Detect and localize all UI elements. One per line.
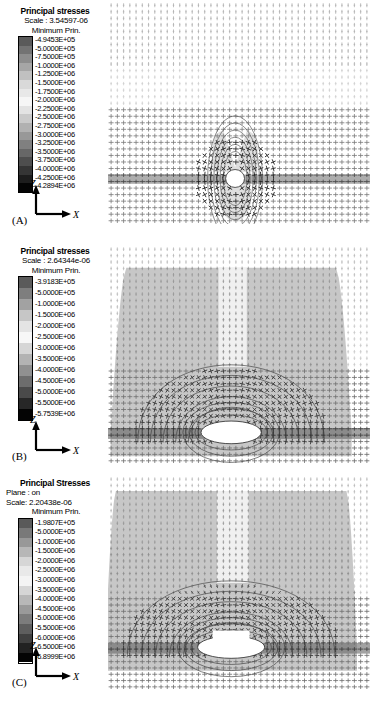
panel-letter-c: (C) xyxy=(12,676,27,688)
legend-value: -2.0000E+06 xyxy=(35,320,75,331)
axis-label-z: Z xyxy=(30,414,36,425)
panel-letter-b: (B) xyxy=(12,450,27,462)
legend-c: Principal Stresses Plane : on Scale: 2.2… xyxy=(4,478,108,664)
legend-value: -5.0000E+06 xyxy=(35,386,75,397)
colorbar-segment xyxy=(19,528,32,538)
colorbar-segment xyxy=(19,365,32,376)
legend-component: Minimum Prin. xyxy=(4,507,108,517)
legend-value: -1.5000E+06 xyxy=(35,546,75,556)
colorbar-segment xyxy=(19,332,32,343)
plot-area-c xyxy=(108,476,370,690)
colorbar-segment xyxy=(19,114,32,123)
colorbar-segment xyxy=(19,166,32,175)
colorbar-segment xyxy=(19,566,32,576)
colorbar-segment xyxy=(19,46,32,55)
legend-value: -3.0000E+06 xyxy=(35,575,75,585)
colorbar-segment xyxy=(19,398,32,409)
legend-value: -4.5000E+06 xyxy=(35,604,75,614)
colorbar-segment xyxy=(19,343,32,354)
legend-value: -2.5000E+06 xyxy=(35,565,75,575)
axis-triad-a: Z X xyxy=(26,178,84,220)
legend-value: -5.0000E+06 xyxy=(35,613,75,623)
panel-b: Principal stresses Scale : 2.64344e-06 M… xyxy=(0,232,372,472)
colorbar-segment xyxy=(19,557,32,567)
colorbar-segment xyxy=(19,354,32,365)
legend-value: -2.5000E+06 xyxy=(35,331,75,342)
legend-value: -5.5000E+06 xyxy=(35,397,75,408)
legend-value: -4.5000E+06 xyxy=(35,375,75,386)
legend-scale: Scale : 3.54597-06 xyxy=(4,16,108,26)
colorbar xyxy=(18,36,33,193)
legend-a: Principal stresses Scale : 3.54597-06 Mi… xyxy=(4,6,108,193)
stress-field-canvas-c xyxy=(108,476,370,690)
legend-value: -3.9183E+05 xyxy=(35,276,75,287)
colorbar-segment xyxy=(19,132,32,141)
colorbar-segment xyxy=(19,519,32,529)
figure-root: Principal stresses Scale : 3.54597-06 Mi… xyxy=(0,0,372,711)
axis-label-x: X xyxy=(72,209,80,220)
legend-value: -5.0000E+05 xyxy=(35,527,75,537)
colorbar-segment xyxy=(19,538,32,548)
legend-value: -5.0000E+05 xyxy=(35,287,75,298)
legend-b: Principal stresses Scale : 2.64344e-06 M… xyxy=(4,246,108,421)
colorbar-segment xyxy=(19,376,32,387)
colorbar-segment xyxy=(19,576,32,586)
legend-value: -1.9807E+05 xyxy=(35,518,75,528)
colorbar-segment xyxy=(19,80,32,89)
legend-value: -3.5000E+06 xyxy=(35,585,75,595)
legend-component: Minimum Prin. xyxy=(4,266,108,276)
colorbar-segment xyxy=(19,605,32,615)
legend-plane: Plane : on xyxy=(4,488,108,498)
colorbar-segment xyxy=(19,321,32,332)
legend-value: -3.0000E+06 xyxy=(35,342,75,353)
colorbar-segment xyxy=(19,54,32,63)
colorbar-segment xyxy=(19,310,32,321)
colorbar xyxy=(18,276,33,421)
legend-value: -3.5000E+06 xyxy=(35,353,75,364)
panel-letter-a: (A) xyxy=(12,214,27,226)
axis-label-x: X xyxy=(72,445,80,456)
legend-value: -1.5000E+06 xyxy=(35,309,75,320)
legend-value: -1.0000E+06 xyxy=(35,537,75,547)
legend-title: Principal Stresses xyxy=(2,478,108,488)
legend-scale: Scale: 2.20438e-06 xyxy=(4,498,108,508)
stress-field-canvas-a xyxy=(108,2,370,224)
colorbar-segment xyxy=(19,157,32,166)
colorbar-segment xyxy=(19,624,32,634)
axis-triad-b: Z X xyxy=(26,414,84,456)
colorbar-segment xyxy=(19,387,32,398)
colorbar-segment xyxy=(19,63,32,72)
colorbar-segment xyxy=(19,288,32,299)
legend-value: -5.5000E+06 xyxy=(35,623,75,633)
plot-area-b xyxy=(108,246,370,464)
axis-triad-c: Z X xyxy=(26,640,84,682)
panel-c: Principal Stresses Plane : on Scale: 2.2… xyxy=(0,472,372,711)
colorbar-segment xyxy=(19,140,32,149)
legend-title: Principal stresses xyxy=(2,246,108,256)
legend-value-list: -3.9183E+05-5.0000E+05-1.0000E+06-1.5000… xyxy=(35,276,75,421)
colorbar-segment xyxy=(19,97,32,106)
panel-a: Principal stresses Scale : 3.54597-06 Mi… xyxy=(0,0,372,232)
legend-value: -4.0000E+06 xyxy=(35,594,75,604)
legend-body: -3.9183E+05-5.0000E+05-1.0000E+06-1.5000… xyxy=(4,276,108,421)
legend-title: Principal stresses xyxy=(2,6,108,16)
colorbar-segment xyxy=(19,71,32,80)
legend-body: -4.9453E+05-5.0000E+05-7.5000E+05-1.0000… xyxy=(4,36,108,193)
colorbar-segment xyxy=(19,106,32,115)
legend-value-list: -4.9453E+05-5.0000E+05-7.5000E+05-1.0000… xyxy=(35,36,75,193)
colorbar-segment xyxy=(19,299,32,310)
colorbar-segment xyxy=(19,123,32,132)
colorbar-segment xyxy=(19,586,32,596)
axis-label-z: Z xyxy=(30,178,36,189)
colorbar-segment xyxy=(19,595,32,605)
legend-component: Minimum Prin. xyxy=(4,26,108,36)
stress-field-canvas-b xyxy=(108,246,370,464)
legend-value: -2.0000E+06 xyxy=(35,556,75,566)
colorbar-segment xyxy=(19,37,32,46)
axis-label-x: X xyxy=(72,671,80,682)
plot-area-a xyxy=(108,2,370,224)
legend-value: -1.0000E+06 xyxy=(35,298,75,309)
colorbar-segment xyxy=(19,89,32,98)
colorbar-segment xyxy=(19,277,32,288)
legend-value: -4.0000E+06 xyxy=(35,364,75,375)
